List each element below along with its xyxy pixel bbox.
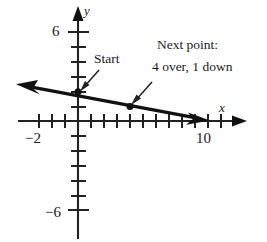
x-axis-name-label: x: [219, 101, 225, 114]
x-axis-arrowhead: [232, 116, 247, 127]
plotted-line: [16, 80, 210, 125]
start-callout-arrow: [80, 70, 99, 92]
y-axis-name-label: y: [84, 4, 90, 17]
line-right-arrowhead: [186, 113, 210, 125]
y-axis-tick-label-neg6: −6: [45, 205, 61, 220]
next-point-label-line1: Next point:: [157, 38, 218, 52]
y-axis-arrowhead: [73, 6, 84, 21]
coordinate-plane-figure: [0, 0, 267, 242]
start-annotation-label: Start: [94, 52, 120, 66]
x-axis-tick-label-10: 10: [196, 131, 211, 146]
y-axis-tick-label-6: 6: [52, 24, 60, 39]
y-axis: [73, 6, 84, 239]
x-axis-tick-label-neg2: −2: [25, 131, 41, 146]
point-start: [75, 88, 82, 95]
next-point-callout-arrow: [131, 82, 152, 105]
next-point-label-line2: 4 over, 1 down: [152, 60, 232, 74]
